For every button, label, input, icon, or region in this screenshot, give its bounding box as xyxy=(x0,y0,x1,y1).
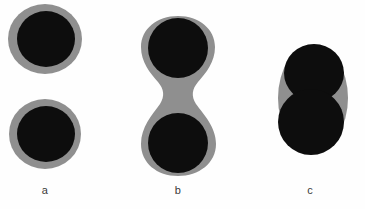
panel-label-c: c xyxy=(298,184,322,196)
panel-a-core-top xyxy=(17,11,75,67)
panel-a-graphic xyxy=(8,4,82,169)
panel-b-core-top xyxy=(148,18,208,78)
diagram-svg xyxy=(0,0,365,209)
panel-b-graphic xyxy=(141,16,216,176)
panel-label-b: b xyxy=(166,184,190,196)
panel-label-a: a xyxy=(33,184,57,196)
panel-c-graphic xyxy=(278,44,348,155)
panel-c-core-bottom xyxy=(278,89,344,155)
panel-b-core-bottom xyxy=(148,113,208,173)
figure-canvas: a b c xyxy=(0,0,365,209)
panel-a-core-bottom xyxy=(17,106,75,162)
